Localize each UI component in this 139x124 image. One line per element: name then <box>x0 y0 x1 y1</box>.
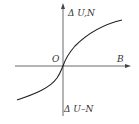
x-axis-label: B <box>117 55 124 64</box>
y-axis-label-bottom: Δ U–N <box>64 105 93 114</box>
s-curve <box>17 20 122 100</box>
y-axis-label-top: Δ U,N <box>68 9 95 18</box>
x-axis-arrow-icon <box>125 64 131 68</box>
origin-label: O <box>52 55 59 64</box>
y-axis-arrow-icon <box>61 3 65 9</box>
